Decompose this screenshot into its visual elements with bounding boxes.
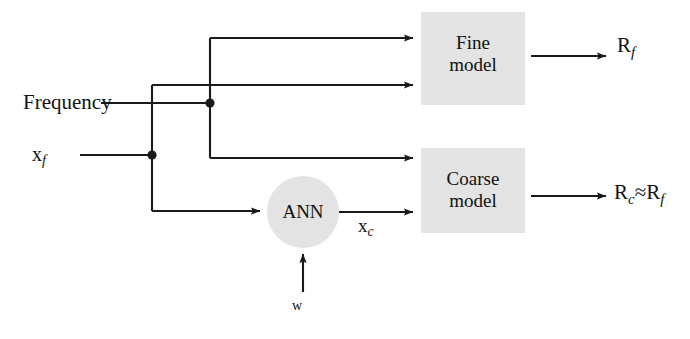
output-label-rf-subscript: f — [631, 44, 635, 60]
output-label-rc-base: R — [614, 180, 628, 204]
signal-label-xc-base: x — [358, 215, 368, 236]
output-label-rf: Rf — [617, 35, 635, 60]
input-label-frequency: Frequency — [23, 92, 112, 113]
output-label-rc-subscript: c — [628, 191, 635, 207]
diagram-wiring — [0, 0, 690, 339]
output-label-rf-base: R — [617, 33, 631, 57]
input-label-w: w — [292, 299, 302, 313]
ann-label: ANN — [268, 201, 338, 223]
diagram-canvas: Frequency xf w Fine model Coarse model A… — [0, 0, 690, 339]
output-label-rc-approx-rf: Rc≈Rf — [614, 182, 664, 207]
coarse-model-label-line2: model — [421, 190, 525, 212]
signal-label-xc-subscript: c — [368, 224, 374, 239]
input-label-xf: xf — [32, 144, 46, 168]
input-label-xf-base: x — [32, 143, 42, 165]
fine-model-label-line2: model — [421, 54, 525, 76]
coarse-model-label: Coarse model — [421, 168, 525, 213]
junction-dot-xf — [147, 150, 156, 159]
signal-label-xc: xc — [358, 216, 374, 239]
fine-model-label: Fine model — [421, 32, 525, 77]
junction-dot-frequency — [205, 98, 214, 107]
output-label-rf2-base: R — [646, 180, 660, 204]
input-label-xf-subscript: f — [42, 152, 46, 168]
fine-model-label-line1: Fine — [421, 32, 525, 54]
output-label-approx-sign: ≈ — [635, 180, 647, 204]
coarse-model-label-line1: Coarse — [421, 168, 525, 190]
output-label-rf2-subscript: f — [660, 191, 664, 207]
